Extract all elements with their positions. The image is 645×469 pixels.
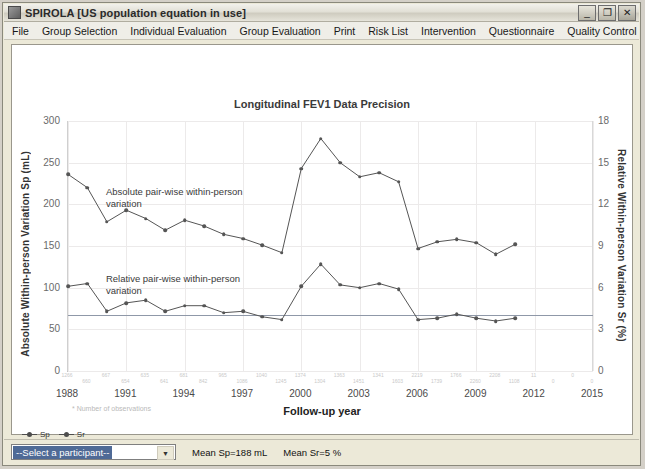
menu-item-print[interactable]: Print: [334, 25, 356, 37]
observation-count: 1108: [502, 378, 526, 384]
chevron-down-icon[interactable]: ▼: [157, 446, 174, 460]
window-title: SPIROLA [US population equation in use]: [25, 7, 246, 19]
data-point-sr: [105, 309, 109, 313]
data-point-sp: [86, 186, 90, 190]
data-point-sr: [86, 282, 90, 286]
data-point-sr: [144, 298, 148, 302]
participant-select[interactable]: --Select a participant-- ▼: [11, 444, 176, 460]
data-point-sp: [319, 137, 323, 141]
menu-item-group-evaluation[interactable]: Group Evaluation: [240, 25, 321, 37]
data-point-sr: [241, 309, 245, 313]
maximize-button[interactable]: ❐: [598, 5, 616, 21]
data-point-sp: [163, 228, 167, 232]
y-tick-right: 18: [598, 115, 632, 126]
participant-select-value: --Select a participant--: [13, 446, 112, 459]
x-tick: 1994: [164, 388, 204, 399]
data-point-sr: [300, 284, 304, 288]
observation-count: 1304: [308, 378, 332, 384]
data-point-sp: [377, 171, 381, 175]
plot-area: [67, 121, 593, 372]
data-point-sp: [397, 180, 401, 184]
data-point-sr: [397, 287, 401, 291]
chart-title: Longitudinal FEV1 Data Precision: [12, 98, 632, 110]
y-tick-left: 150: [26, 240, 60, 251]
close-button[interactable]: ✕: [618, 5, 636, 21]
data-point-sp: [183, 218, 187, 222]
x-tick: 2000: [280, 388, 320, 399]
observation-count: 842: [191, 378, 215, 384]
menu-item-risk-list[interactable]: Risk List: [368, 25, 408, 37]
data-point-sp: [416, 247, 420, 251]
data-point-sr: [513, 316, 517, 320]
menu-item-file[interactable]: File: [12, 25, 29, 37]
data-point-sr: [222, 311, 226, 315]
y-tick-right: 9: [598, 240, 632, 251]
chart-legend: Sp Sr: [22, 430, 85, 439]
x-tick: 2003: [339, 388, 379, 399]
data-point-sr: [494, 319, 498, 323]
menu-item-group-selection[interactable]: Group Selection: [42, 25, 117, 37]
data-point-sp: [66, 173, 70, 177]
menu-item-individual-evaluation[interactable]: Individual Evaluation: [130, 25, 226, 37]
observation-count: 2260: [463, 378, 487, 384]
data-point-sp: [338, 161, 342, 165]
annotation-absolute: Absolute pair-wise within-person variati…: [106, 186, 256, 210]
legend-marker-sp-icon: [22, 432, 37, 438]
minimize-button[interactable]: _: [578, 5, 596, 21]
data-point-sr: [416, 318, 420, 322]
menu-item-intervention[interactable]: Intervention: [421, 25, 476, 37]
fev1-precision-chart: Longitudinal FEV1 Data Precision Absolut…: [12, 45, 632, 434]
x-tick: 1988: [47, 388, 87, 399]
data-point-sr: [319, 262, 323, 266]
data-point-sp: [202, 224, 206, 228]
gridline-horizontal: [68, 371, 593, 372]
observation-count: 654: [113, 378, 137, 384]
y-tick-right: 3: [598, 323, 632, 334]
legend-item-sp: Sp: [22, 430, 50, 439]
application-window: SPIROLA [US population equation in use] …: [2, 2, 641, 466]
data-point-sp: [300, 167, 304, 171]
observation-count: 1086: [230, 378, 254, 384]
data-point-sr: [202, 304, 206, 308]
y-tick-left: 200: [26, 198, 60, 209]
y-tick-right: 6: [598, 282, 632, 293]
data-point-sp: [105, 220, 109, 224]
data-point-sr: [66, 284, 70, 288]
data-point-sr: [183, 304, 187, 308]
data-point-sp: [455, 238, 459, 242]
app-icon: [8, 6, 21, 19]
x-tick: 2012: [514, 388, 554, 399]
legend-label-sp: Sp: [40, 430, 50, 439]
data-point-sp: [494, 253, 498, 257]
status-bar: --Select a participant-- ▼ Mean Sp=188 m…: [4, 439, 639, 464]
data-point-sr: [475, 316, 479, 320]
data-point-sp: [261, 243, 265, 247]
data-point-sp: [358, 175, 362, 179]
observation-count: 1603: [386, 378, 410, 384]
x-tick: 1991: [105, 388, 145, 399]
observation-count: 641: [152, 378, 176, 384]
legend-label-sr: Sr: [77, 430, 85, 439]
x-axis-label: Follow-up year: [12, 405, 632, 417]
data-point-sp: [475, 241, 479, 245]
data-point-sr: [163, 309, 167, 313]
y-tick-left: 100: [26, 282, 60, 293]
data-point-sp: [241, 237, 245, 241]
menu-item-questionnaire[interactable]: Questionnaire: [489, 25, 554, 37]
mean-sr-value: Mean Sr=5 %: [283, 447, 341, 458]
x-tick: 2015: [572, 388, 612, 399]
data-point-sr: [338, 283, 342, 287]
observation-count: 0: [580, 378, 604, 384]
y-tick-left: 300: [26, 115, 60, 126]
observation-count: 0: [541, 378, 565, 384]
menu-bar: File Group Selection Individual Evaluati…: [4, 22, 639, 40]
title-bar: SPIROLA [US population equation in use] …: [4, 4, 639, 22]
data-point-sr: [358, 286, 362, 290]
legend-item-sr: Sr: [59, 430, 85, 439]
legend-marker-sr-icon: [59, 432, 74, 438]
y-tick-left: 50: [26, 323, 60, 334]
menu-item-quality-control[interactable]: Quality Control: [567, 25, 636, 37]
annotation-relative: Relative pair-wise within-person variati…: [106, 273, 256, 297]
y-tick-left: 250: [26, 157, 60, 168]
data-point-sp: [222, 233, 226, 237]
